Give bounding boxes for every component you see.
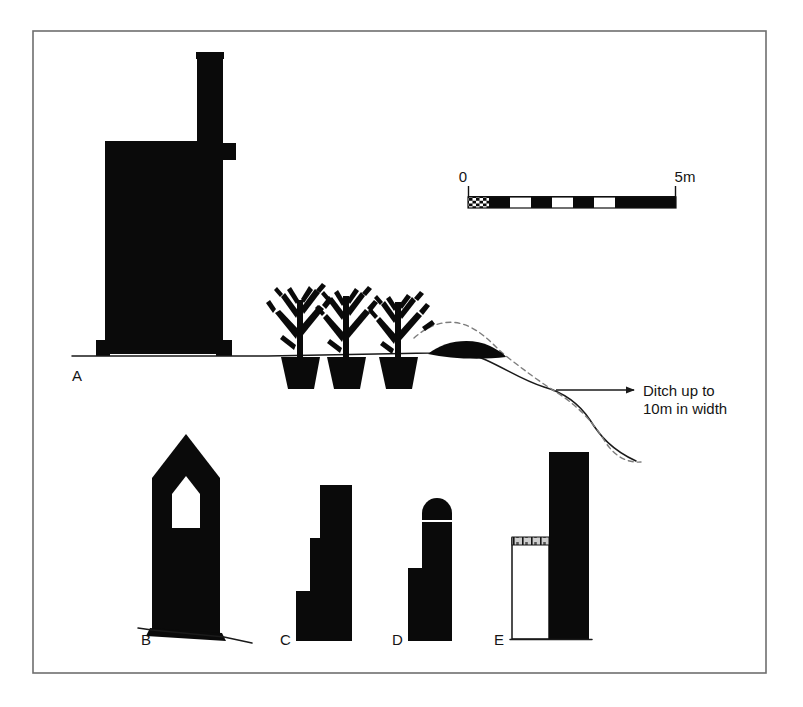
tower-body — [105, 56, 223, 354]
scale-segment-checker — [468, 197, 489, 208]
earthwork-mound — [428, 341, 506, 359]
e-open-bay — [512, 538, 549, 639]
scale-segment-2 — [510, 197, 531, 208]
label-a: A — [72, 367, 82, 384]
d-wall-silhouette — [408, 522, 452, 641]
e-coping-band — [512, 537, 549, 545]
c-wall-silhouette — [296, 485, 352, 641]
scale-start-label: 0 — [459, 168, 467, 185]
structure-e-pier-and-bay: E — [494, 452, 592, 648]
ditch-annotation-line1: Ditch up to — [643, 382, 715, 399]
tower-plinth-left — [96, 340, 110, 356]
planting-pit-1 — [281, 357, 320, 389]
scale-bar: 0 5m — [459, 168, 696, 208]
vegetation-group — [266, 283, 435, 389]
structure-c-stepped-wall: C — [280, 485, 352, 648]
planting-pit-3 — [379, 357, 418, 389]
label-c: C — [280, 631, 291, 648]
tower-plinth-right — [216, 340, 232, 356]
turret-cap — [196, 52, 224, 59]
d-domed-cap — [422, 498, 452, 520]
structure-a-tower — [96, 52, 236, 356]
scale-segment-7 — [615, 197, 676, 208]
b-wall-silhouette — [152, 434, 220, 637]
structure-b-gable-wall: B — [138, 434, 252, 648]
scale-segment-3 — [531, 197, 552, 208]
scale-segment-5 — [573, 197, 594, 208]
tree-3 — [368, 291, 435, 360]
structure-d-domed-wall: D — [392, 498, 452, 648]
tower-corbel-stub — [223, 143, 236, 160]
label-b: B — [141, 631, 151, 648]
label-d: D — [392, 631, 403, 648]
scale-end-label: 5m — [675, 168, 696, 185]
scale-segment-6 — [594, 197, 615, 208]
archaeology-figure: A 0 5m Ditch up to 10m in width — [0, 0, 803, 707]
planting-pit-2 — [327, 357, 366, 389]
figure-canvas: A 0 5m Ditch up to 10m in width — [0, 0, 803, 707]
scale-segment-1 — [489, 197, 510, 208]
label-e: E — [494, 631, 504, 648]
tree-2 — [315, 286, 378, 360]
scale-segment-4 — [552, 197, 573, 208]
ditch-annotation-line2: 10m in width — [643, 400, 727, 417]
e-solid-pier — [549, 452, 589, 639]
